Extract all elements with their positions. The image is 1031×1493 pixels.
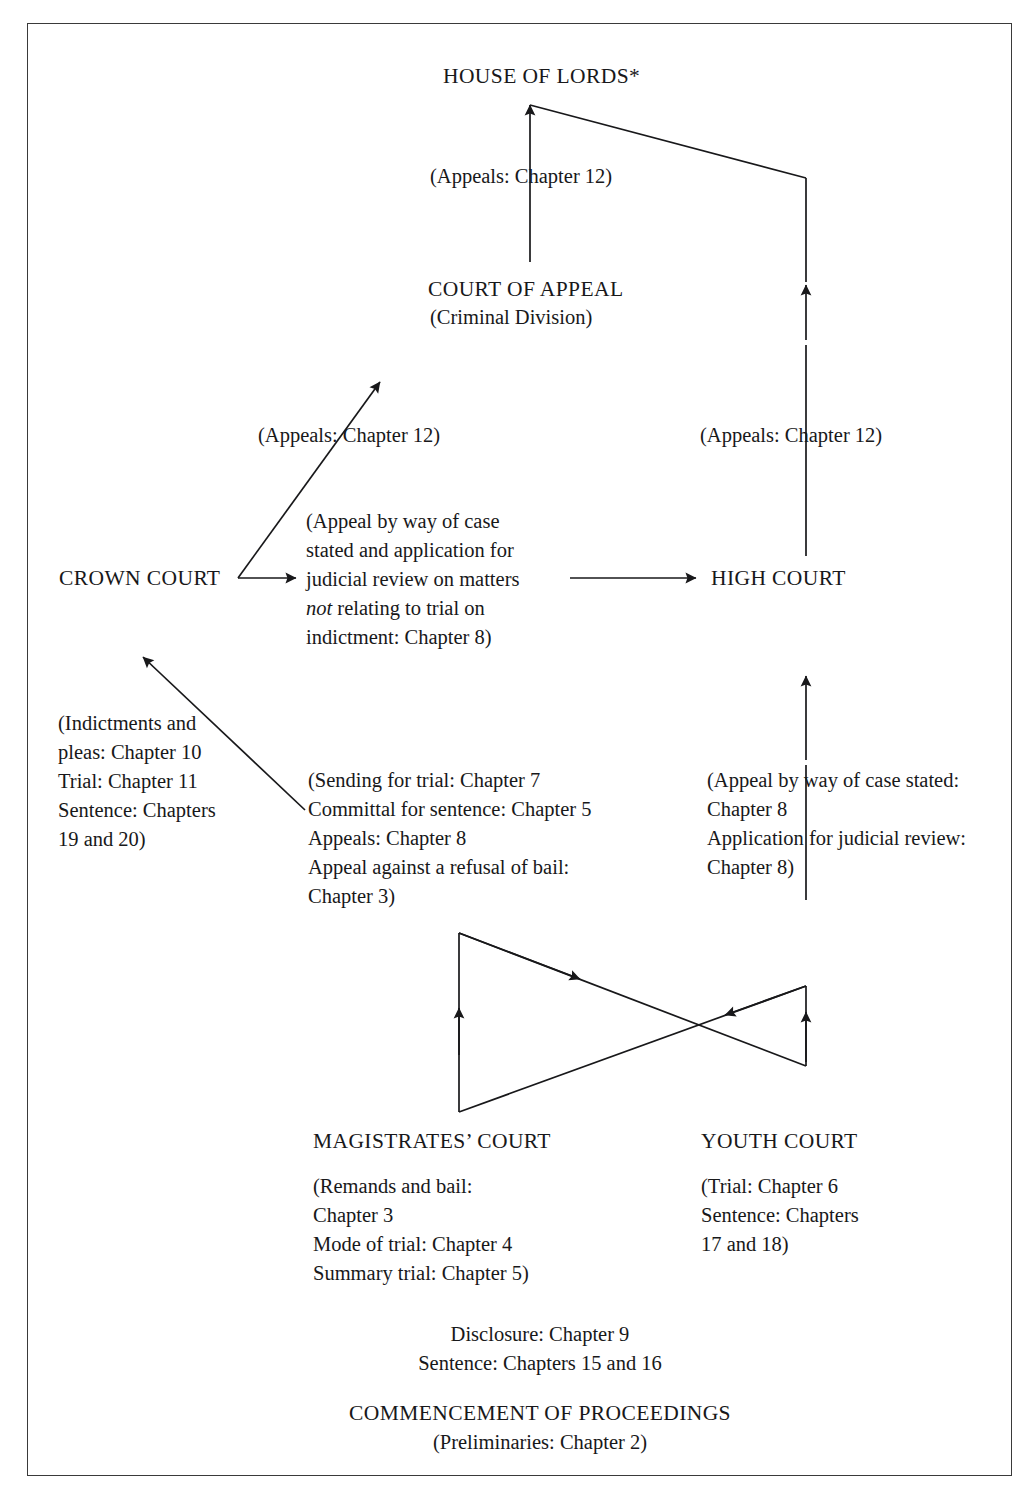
- edge-label-indictments-and-pleas: (Indictments and pleas: Chapter 10 Trial…: [58, 709, 216, 855]
- node-house-of-lords: HOUSE OF LORDS*: [443, 61, 640, 92]
- node-court-of-appeal-division: (Criminal Division): [430, 303, 592, 332]
- node-commencement-of-proceedings: COMMENCEMENT OF PROCEEDINGS: [280, 1398, 800, 1429]
- node-disclosure-and-sentence-note: Disclosure: Chapter 9 Sentence: Chapters…: [330, 1320, 750, 1378]
- node-commencement-note: (Preliminaries: Chapter 2): [280, 1428, 800, 1457]
- node-crown-court: CROWN COURT: [59, 563, 220, 594]
- edge-label-crown-court-to-high-court: (Appeal by way of casestated and applica…: [306, 507, 519, 653]
- edge-label-sending-for-trial: (Sending for trial: Chapter 7 Committal …: [308, 766, 592, 912]
- edge-label-house-of-lords-appeals: (Appeals: Chapter 12): [430, 162, 612, 191]
- crown-note-line-4-italic: not: [306, 597, 332, 619]
- edge-label-appeals-right: (Appeals: Chapter 12): [700, 421, 882, 450]
- node-magistrates-court: MAGISTRATES’ COURT: [313, 1126, 551, 1157]
- crown-note-line-5: indictment: Chapter 8): [306, 626, 492, 648]
- node-youth-court-note: (Trial: Chapter 6 Sentence: Chapters 17 …: [701, 1172, 859, 1259]
- node-court-of-appeal: COURT OF APPEAL: [428, 274, 623, 305]
- node-high-court: HIGH COURT: [711, 563, 846, 594]
- crown-note-line-1: (Appeal by way of case: [306, 510, 500, 532]
- node-magistrates-court-note: (Remands and bail: Chapter 3 Mode of tri…: [313, 1172, 529, 1288]
- crown-note-line-2: stated and application for: [306, 539, 514, 561]
- crown-note-line-4-rest: relating to trial on: [332, 597, 485, 619]
- edge-label-appeals-left: (Appeals: Chapter 12): [258, 421, 440, 450]
- crown-note-line-3: judicial review on matters: [306, 568, 519, 590]
- node-youth-court: YOUTH COURT: [701, 1126, 858, 1157]
- edge-label-high-court-appeals: (Appeal by way of case stated: Chapter 8…: [707, 766, 966, 882]
- diagram-page: HOUSE OF LORDS* (Appeals: Chapter 12) CO…: [0, 0, 1031, 1493]
